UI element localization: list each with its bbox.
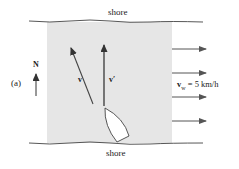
bottom-shore-label: shore xyxy=(106,148,126,158)
vector-v-prime-label: v′ xyxy=(109,75,115,84)
north-label: N xyxy=(33,60,39,69)
water-velocity-value: = 5 km/h xyxy=(186,79,219,89)
vector-v-label: v xyxy=(78,75,82,84)
water-velocity-label: vw = 5 km/h xyxy=(177,79,219,91)
top-shore-label: shore xyxy=(108,7,128,17)
panel-label: (a) xyxy=(11,78,21,88)
top-shoreline xyxy=(29,20,203,22)
